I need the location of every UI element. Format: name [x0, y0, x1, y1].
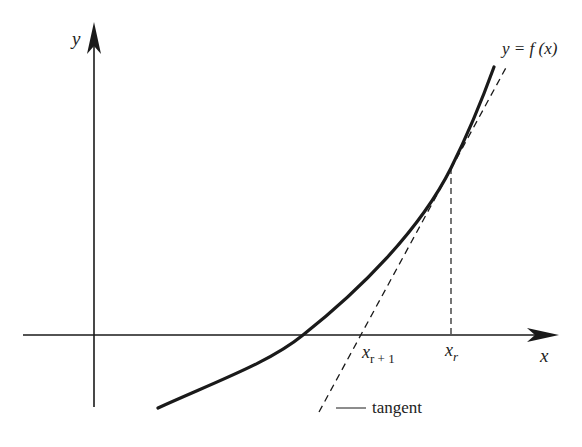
tangent-line — [319, 64, 508, 412]
xr-sub: r — [453, 349, 459, 364]
function-curve — [158, 67, 494, 408]
xr-label: xr — [444, 340, 459, 364]
xr-base: x — [444, 340, 453, 360]
curve-label: y = f (x) — [500, 39, 558, 58]
diagram-svg: y x y = f (x) xr xr + 1 tangent — [0, 0, 582, 447]
curve-label-text: y = f (x) — [500, 39, 558, 58]
xr1-base: x — [361, 342, 370, 362]
y-axis-label: y — [70, 28, 81, 49]
xr1-sub: r + 1 — [370, 351, 395, 366]
xr1-label: xr + 1 — [361, 342, 395, 366]
x-axis-label: x — [539, 345, 549, 366]
tangent-label: tangent — [372, 398, 422, 417]
newton-raphson-diagram: y x y = f (x) xr xr + 1 tangent — [0, 0, 582, 447]
